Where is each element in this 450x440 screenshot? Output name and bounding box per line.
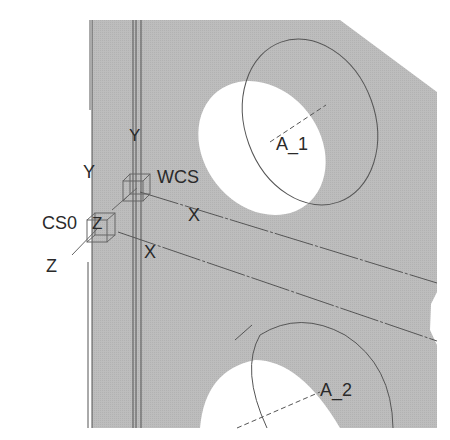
cs0-z-inline-label: Z	[92, 214, 102, 233]
wcs-x-label: X	[188, 205, 200, 225]
cad-model-viewport[interactable]: Y WCS X Y CS0 Z X Z A_1 A_2	[0, 0, 450, 440]
cs0-x-label: X	[144, 242, 156, 262]
cs0-name-label: CS0	[42, 213, 77, 233]
axis-a1-label: A_1	[276, 134, 308, 155]
wcs-y-label: Y	[129, 126, 140, 145]
wcs-name-label: WCS	[157, 167, 199, 187]
axis-a2-label: A_2	[320, 380, 352, 401]
cs0-y-label: Y	[83, 162, 95, 182]
cs0-z-label: Z	[46, 256, 57, 276]
